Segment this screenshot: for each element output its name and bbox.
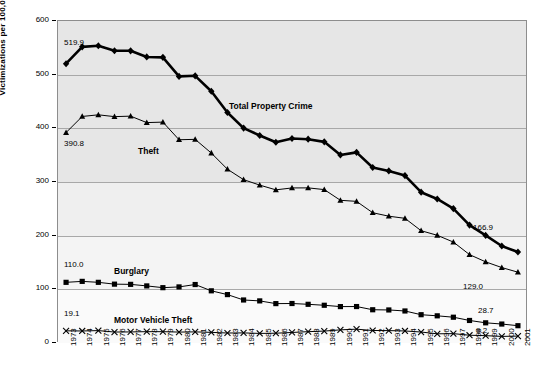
burglary-start-value: 110.0 [64,260,83,269]
x-tick-label: 1997 [458,328,467,346]
x-tick-label: 1982 [215,328,224,346]
y-tick-label: 500 [25,69,49,78]
x-tick-label: 1979 [166,328,175,346]
y-tick-label: 200 [25,230,49,239]
y-tick-mark [52,181,56,182]
x-tick-label: 1986 [280,328,289,346]
x-tick-label: 2000 [507,328,516,346]
x-tick-label: 1998 [474,328,483,346]
plot-area: 519.9390.8110.019.1166.9129.028.79.2Tota… [57,20,527,342]
x-tick-label: 1987 [296,328,305,346]
total-property-crime-label: Total Property Crime [229,101,312,111]
x-tick-label: 1996 [442,328,451,346]
x-tick-label: 1994 [409,328,418,346]
x-tick-label: 1990 [345,328,354,346]
y-axis-title: Victimizations per 100,000 Households [0,0,7,108]
x-tick-label: 1974 [85,328,94,346]
y-tick-mark [52,288,56,289]
motor-vehicle-theft-label: Motor Vehicle Theft [114,315,192,325]
x-tick-label: 1989 [328,328,337,346]
x-tick-label: 1977 [134,328,143,346]
x-tick-label: 1978 [150,328,159,346]
y-tick-mark [52,342,56,343]
x-tick-label: 1985 [264,328,273,346]
y-tick-label: 600 [25,15,49,24]
property-crime-trend-chart: Victimizations per 100,000 Households 01… [0,0,547,391]
x-tick-label: 1991 [361,328,370,346]
total-property-crime-end-value: 166.9 [473,223,493,232]
x-tick-label: 1992 [377,328,386,346]
theft-label: Theft [138,146,159,156]
y-tick-mark [52,74,56,75]
x-tick-label: 2001 [523,328,532,346]
burglary-label: Burglary [114,266,149,276]
burglary-end-value: 28.7 [478,306,494,315]
y-tick-mark [52,20,56,21]
y-tick-label: 0 [25,337,49,346]
y-tick-mark [52,127,56,128]
x-tick-label: 1980 [183,328,192,346]
x-tick-label: 1984 [247,328,256,346]
theft-end-value: 129.0 [463,282,483,291]
x-tick-label: 1999 [490,328,499,346]
y-tick-mark [52,235,56,236]
x-tick-label: 1988 [312,328,321,346]
x-tick-label: 1995 [426,328,435,346]
x-tick-label: 1983 [231,328,240,346]
total-property-crime-start-value: 519.9 [64,38,84,47]
x-tick-label: 1975 [102,328,111,346]
y-tick-label: 100 [25,283,49,292]
y-tick-label: 400 [25,122,49,131]
y-tick-label: 300 [25,176,49,185]
x-tick-label: 1976 [118,328,127,346]
x-tick-label: 1981 [199,328,208,346]
series-layer [58,21,526,341]
motor-vehicle-theft-start-value: 19.1 [64,309,80,318]
x-tick-label: 1993 [393,328,402,346]
x-tick-label: 1973 [69,328,78,346]
series-total-property-crime [63,42,521,255]
series-motor-vehicle-theft [63,326,521,339]
theft-start-value: 390.8 [64,139,84,148]
